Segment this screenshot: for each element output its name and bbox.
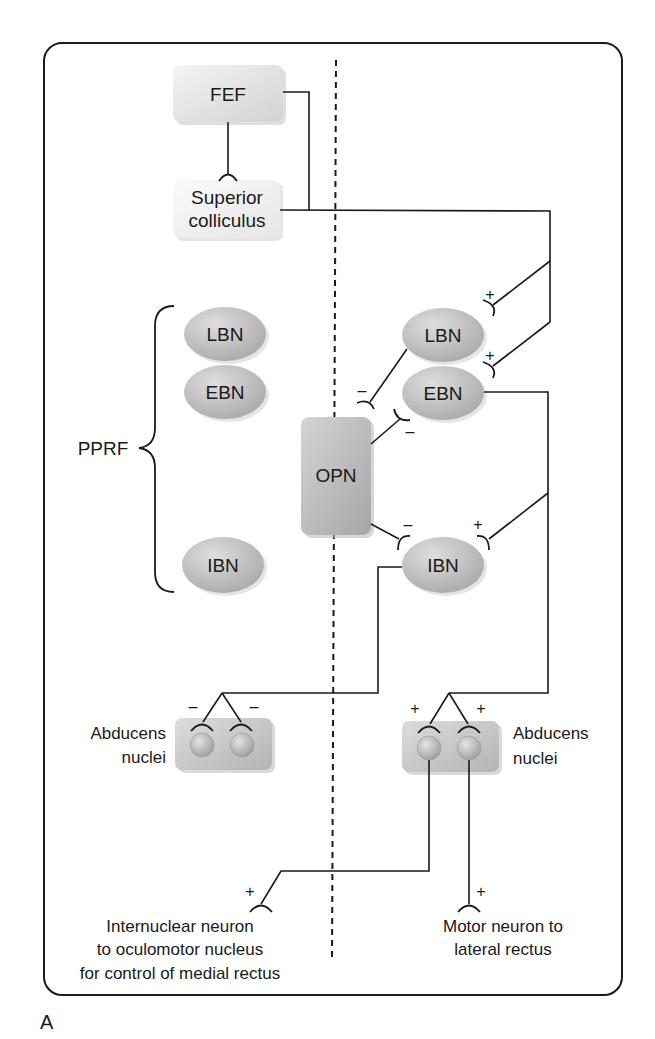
- opn-node: OPN: [301, 417, 374, 538]
- right-lbn-label: LBN: [425, 325, 462, 346]
- sign-opn-to-ebn-minus: –: [406, 423, 415, 440]
- left-abducens-neuron-1: [190, 733, 214, 757]
- left-lbn-label: LBN: [207, 324, 244, 345]
- left-ebn-label: EBN: [205, 382, 244, 403]
- fef-node: FEF: [173, 65, 286, 125]
- left-abducens-label-line2: nuclei: [122, 748, 166, 767]
- motor-label-line2: lateral rectus: [454, 940, 551, 959]
- panel-label: A: [40, 1011, 54, 1033]
- internuclear-label-line3: for control of medial rectus: [80, 964, 280, 983]
- motor-label-line1: Motor neuron to: [443, 917, 563, 936]
- left-abducens-label-line1: Abducens: [90, 724, 166, 743]
- right-abducens-label-line1: Abducens: [513, 724, 589, 743]
- sign-opn-to-lbn-minus: –: [358, 382, 367, 399]
- sign-opn-to-ibn-minus: –: [404, 516, 413, 533]
- right-abducens-neuron-2: [457, 736, 481, 760]
- sign-internuclear-plus: +: [245, 883, 254, 900]
- left-abducens-neuron-2: [230, 733, 254, 757]
- right-ibn-label: IBN: [427, 555, 459, 576]
- right-abducens-neuron-1: [417, 736, 441, 760]
- opn-label: OPN: [315, 465, 356, 486]
- superior-colliculus-label-line2: colliculus: [188, 210, 265, 231]
- pprf-label: PPRF: [78, 438, 129, 459]
- saccade-circuit-diagram: FEF Superior colliculus + + PPRF LBN EBN…: [0, 0, 655, 1039]
- sign-right-abducens-a: +: [410, 700, 419, 717]
- fef-label: FEF: [210, 84, 246, 105]
- sign-right-abducens-b: +: [476, 700, 485, 717]
- superior-colliculus-node: Superior colliculus: [173, 180, 283, 241]
- left-abducens-nuclei: [175, 718, 275, 773]
- internuclear-label-line1: Internuclear neuron: [106, 917, 253, 936]
- sign-motor-plus: +: [476, 883, 485, 900]
- right-abducens-nuclei: [402, 721, 502, 775]
- internuclear-label-line2: to oculomotor nucleus: [97, 940, 263, 959]
- right-ebn-label: EBN: [423, 383, 462, 404]
- left-ibn-label: IBN: [207, 555, 239, 576]
- sign-left-abducens-b: –: [250, 698, 259, 715]
- right-abducens-label-line2: nuclei: [513, 749, 557, 768]
- sign-right-ebn-plus: +: [485, 347, 494, 364]
- sign-right-ibn-plus: +: [473, 516, 482, 533]
- sign-right-lbn-plus: +: [485, 286, 494, 303]
- sign-left-abducens-a: –: [189, 698, 198, 715]
- superior-colliculus-label-line1: Superior: [191, 187, 263, 208]
